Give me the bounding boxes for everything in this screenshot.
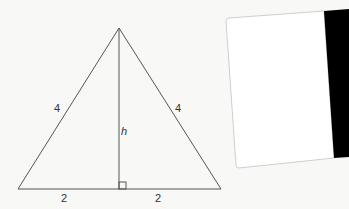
base-left-label: 2 [61, 192, 67, 204]
base-right-label: 2 [155, 192, 161, 204]
right-angle-marker [119, 182, 126, 189]
diagram-canvas: 4 4 h 2 2 [0, 0, 349, 209]
left-side [18, 28, 119, 189]
height-label: h [121, 125, 127, 137]
overlay-card [226, 9, 349, 168]
right-side-label: 4 [175, 102, 181, 114]
triangle [18, 28, 221, 189]
right-side [119, 28, 221, 189]
left-side-label: 4 [54, 102, 60, 114]
